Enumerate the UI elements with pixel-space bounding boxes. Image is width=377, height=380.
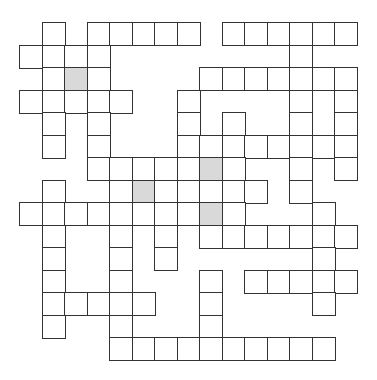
grid-cell[interactable] <box>222 202 246 226</box>
grid-cell[interactable] <box>109 90 133 114</box>
grid-cell[interactable] <box>109 225 133 249</box>
grid-cell[interactable] <box>177 202 201 226</box>
grid-cell[interactable] <box>109 202 133 226</box>
grid-cell[interactable] <box>132 337 156 361</box>
grid-cell[interactable] <box>19 45 43 69</box>
grid-cell[interactable] <box>42 292 66 316</box>
grid-cell[interactable] <box>42 225 66 249</box>
grid-cell[interactable] <box>267 270 291 294</box>
grid-cell[interactable] <box>199 67 223 91</box>
shaded-grid-cell[interactable] <box>132 180 156 204</box>
grid-cell[interactable] <box>177 337 201 361</box>
grid-cell[interactable] <box>154 180 178 204</box>
grid-cell[interactable] <box>42 45 66 69</box>
shaded-grid-cell[interactable] <box>64 67 88 91</box>
grid-cell[interactable] <box>64 90 88 114</box>
grid-cell[interactable] <box>177 90 201 114</box>
grid-cell[interactable] <box>312 225 336 249</box>
grid-cell[interactable] <box>199 270 223 294</box>
grid-cell[interactable] <box>312 270 336 294</box>
grid-cell[interactable] <box>334 157 358 181</box>
grid-cell[interactable] <box>19 90 43 114</box>
grid-cell[interactable] <box>334 90 358 114</box>
grid-cell[interactable] <box>132 22 156 46</box>
grid-cell[interactable] <box>244 67 268 91</box>
grid-cell[interactable] <box>42 22 66 46</box>
grid-cell[interactable] <box>109 337 133 361</box>
grid-cell[interactable] <box>109 292 133 316</box>
grid-cell[interactable] <box>87 202 111 226</box>
grid-cell[interactable] <box>334 270 358 294</box>
grid-cell[interactable] <box>289 67 313 91</box>
grid-cell[interactable] <box>42 90 66 114</box>
grid-cell[interactable] <box>267 225 291 249</box>
grid-cell[interactable] <box>289 112 313 136</box>
grid-cell[interactable] <box>19 202 43 226</box>
grid-cell[interactable] <box>177 180 201 204</box>
grid-cell[interactable] <box>222 337 246 361</box>
grid-cell[interactable] <box>244 22 268 46</box>
grid-cell[interactable] <box>42 315 66 339</box>
grid-cell[interactable] <box>154 22 178 46</box>
grid-cell[interactable] <box>222 112 246 136</box>
grid-cell[interactable] <box>289 157 313 181</box>
grid-cell[interactable] <box>334 67 358 91</box>
grid-cell[interactable] <box>42 180 66 204</box>
grid-cell[interactable] <box>289 270 313 294</box>
grid-cell[interactable] <box>87 67 111 91</box>
grid-cell[interactable] <box>244 180 268 204</box>
grid-cell[interactable] <box>64 202 88 226</box>
grid-cell[interactable] <box>222 180 246 204</box>
grid-cell[interactable] <box>199 135 223 159</box>
grid-cell[interactable] <box>42 135 66 159</box>
grid-cell[interactable] <box>334 135 358 159</box>
grid-cell[interactable] <box>267 337 291 361</box>
grid-cell[interactable] <box>312 22 336 46</box>
grid-cell[interactable] <box>177 157 201 181</box>
grid-cell[interactable] <box>109 157 133 181</box>
grid-cell[interactable] <box>154 225 178 249</box>
grid-cell[interactable] <box>244 225 268 249</box>
grid-cell[interactable] <box>222 67 246 91</box>
shaded-grid-cell[interactable] <box>199 202 223 226</box>
grid-cell[interactable] <box>177 22 201 46</box>
grid-cell[interactable] <box>289 22 313 46</box>
grid-cell[interactable] <box>199 337 223 361</box>
grid-cell[interactable] <box>199 180 223 204</box>
grid-cell[interactable] <box>289 90 313 114</box>
grid-cell[interactable] <box>87 45 111 69</box>
grid-cell[interactable] <box>109 270 133 294</box>
grid-cell[interactable] <box>267 135 291 159</box>
grid-cell[interactable] <box>177 135 201 159</box>
grid-cell[interactable] <box>154 247 178 271</box>
grid-cell[interactable] <box>87 292 111 316</box>
grid-cell[interactable] <box>154 337 178 361</box>
grid-cell[interactable] <box>222 22 246 46</box>
grid-cell[interactable] <box>64 292 88 316</box>
grid-cell[interactable] <box>312 337 336 361</box>
grid-cell[interactable] <box>109 180 133 204</box>
grid-cell[interactable] <box>109 315 133 339</box>
grid-cell[interactable] <box>289 225 313 249</box>
grid-cell[interactable] <box>87 135 111 159</box>
grid-cell[interactable] <box>87 157 111 181</box>
grid-cell[interactable] <box>334 112 358 136</box>
grid-cell[interactable] <box>154 202 178 226</box>
grid-cell[interactable] <box>87 90 111 114</box>
grid-cell[interactable] <box>42 202 66 226</box>
grid-cell[interactable] <box>312 135 336 159</box>
grid-cell[interactable] <box>312 202 336 226</box>
grid-cell[interactable] <box>199 225 223 249</box>
grid-cell[interactable] <box>64 45 88 69</box>
grid-cell[interactable] <box>177 112 201 136</box>
grid-cell[interactable] <box>289 180 313 204</box>
grid-cell[interactable] <box>244 135 268 159</box>
shaded-grid-cell[interactable] <box>199 157 223 181</box>
grid-cell[interactable] <box>312 247 336 271</box>
grid-cell[interactable] <box>132 157 156 181</box>
grid-cell[interactable] <box>87 112 111 136</box>
grid-cell[interactable] <box>132 292 156 316</box>
grid-cell[interactable] <box>109 22 133 46</box>
grid-cell[interactable] <box>42 112 66 136</box>
grid-cell[interactable] <box>222 157 246 181</box>
